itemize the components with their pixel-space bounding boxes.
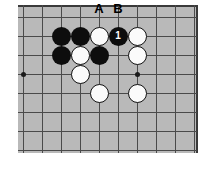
stone-white bbox=[90, 84, 109, 103]
go-diagram-screenshot: AB 1 bbox=[0, 0, 213, 170]
grid-line-horizontal bbox=[18, 74, 197, 75]
point-label-b: B bbox=[108, 2, 128, 16]
grid-line-horizontal bbox=[18, 112, 197, 113]
stone-black bbox=[52, 27, 71, 46]
stone-white bbox=[71, 65, 90, 84]
grid-line-horizontal bbox=[18, 17, 197, 18]
stone-white bbox=[128, 27, 147, 46]
stone-black bbox=[90, 46, 109, 65]
stone-move-number: 1 bbox=[115, 31, 121, 41]
star-point bbox=[21, 72, 26, 77]
stone-black-numbered: 1 bbox=[109, 27, 128, 46]
stone-white bbox=[71, 46, 90, 65]
stone-black bbox=[71, 27, 90, 46]
point-label-a: A bbox=[89, 2, 109, 16]
stone-white bbox=[128, 46, 147, 65]
star-point bbox=[135, 72, 140, 77]
grid-line-horizontal bbox=[18, 150, 197, 151]
stone-black bbox=[52, 46, 71, 65]
stone-white bbox=[90, 27, 109, 46]
stone-white bbox=[128, 84, 147, 103]
grid-line-horizontal bbox=[18, 131, 197, 132]
